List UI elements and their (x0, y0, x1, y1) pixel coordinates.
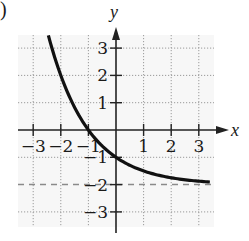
figure-label-fragment: ) (0, 0, 7, 21)
y-tick-label: −1 (83, 147, 108, 167)
x-axis-label: x (230, 120, 239, 140)
y-tick-label: 3 (97, 38, 108, 58)
x-tick-label: 1 (138, 136, 149, 156)
y-tick-label: 1 (97, 93, 108, 113)
x-tick-label: 3 (193, 136, 204, 156)
y-tick-label: 2 (97, 65, 108, 85)
y-axis-arrow-icon (112, 27, 120, 40)
x-tick-label: −3 (21, 136, 46, 156)
y-axis-label: y (108, 2, 118, 22)
y-tick-label: −3 (83, 202, 108, 222)
x-tick-label: −2 (48, 136, 73, 156)
x-axis-arrow-icon (216, 126, 229, 134)
y-tick-label: −2 (83, 175, 108, 195)
function-graph: −3−2−1123321−1−2−3 x y ) (0, 0, 249, 241)
x-tick-label: 2 (166, 136, 177, 156)
